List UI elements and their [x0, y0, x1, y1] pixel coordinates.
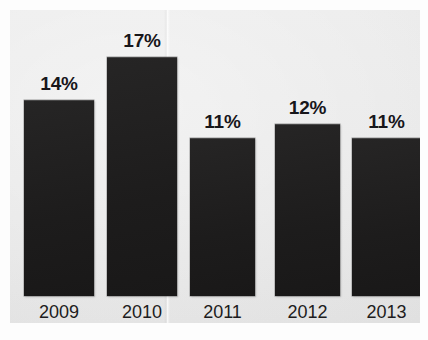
bar-group-2009: 14% 2009 [24, 37, 94, 296]
bar-2011 [190, 138, 255, 296]
bar-value-label: 17% [91, 31, 193, 50]
bar-2010 [107, 57, 177, 296]
bar-group-2011: 11% 2011 [190, 37, 255, 296]
bar-group-2013: 11% 2013 [352, 37, 420, 296]
bar-group-2010: 17% 2010 [107, 37, 177, 296]
bar-value-label: 11% [336, 112, 420, 131]
bar-2012 [275, 124, 340, 296]
scanned-page: 14% 2009 17% 2010 11% 2011 12% 2012 11% [0, 0, 428, 340]
bar-chart-panel: 14% 2009 17% 2010 11% 2011 12% 2012 11% [10, 10, 420, 323]
bar-2013 [352, 138, 420, 296]
category-label-2013: 2013 [332, 303, 420, 321]
bar-value-label: 11% [174, 112, 271, 131]
bar-2009 [24, 100, 94, 296]
bar-value-label: 14% [10, 74, 110, 93]
bar-group-2012: 12% 2012 [275, 37, 340, 296]
plot-area: 14% 2009 17% 2010 11% 2011 12% 2012 11% [10, 10, 420, 323]
